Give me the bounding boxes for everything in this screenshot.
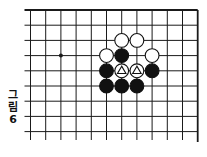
black-stone: [115, 79, 129, 93]
star-points: [59, 54, 63, 58]
white-stone-triangle-marked: [130, 64, 144, 78]
go-board: [0, 0, 207, 157]
caption-char-3: 6: [5, 114, 21, 126]
white-stone: [100, 49, 114, 63]
black-stone: [130, 79, 144, 93]
white-stone-triangle-marked: [115, 64, 129, 78]
white-stone: [115, 34, 129, 48]
white-stone: [130, 34, 144, 48]
black-stone: [115, 49, 129, 63]
black-stone: [100, 79, 114, 93]
black-stone: [145, 64, 159, 78]
star-point-icon: [59, 54, 63, 58]
black-stone: [100, 64, 114, 78]
stones: [100, 34, 159, 93]
white-stone: [145, 49, 159, 63]
figure-caption: 그 림 6: [5, 90, 21, 126]
